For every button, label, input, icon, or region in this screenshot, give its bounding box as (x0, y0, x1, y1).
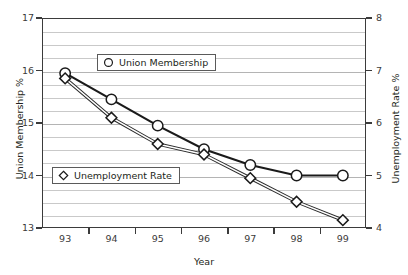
data-point-circle (153, 120, 163, 130)
data-point-circle (245, 160, 255, 170)
right-axis-tick (366, 227, 372, 229)
series-layer (42, 18, 366, 228)
right-axis-title: Unemployment Rate % (390, 64, 401, 194)
legend-unemployment-rate: Unemployment Rate (52, 167, 180, 184)
diamond-marker-icon (58, 170, 69, 181)
circle-marker-icon (103, 57, 114, 68)
left-axis-title: Union Membership % (14, 64, 25, 194)
legend-union-label: Union Membership (119, 58, 208, 68)
data-point-circle (338, 170, 348, 180)
x-axis-tick (181, 228, 183, 234)
legend-unemployment-label: Unemployment Rate (74, 171, 172, 181)
x-axis-tick (88, 228, 90, 234)
right-axis-tick (366, 175, 372, 177)
right-axis-tick (366, 70, 372, 72)
x-axis-tick-label: 95 (143, 234, 173, 244)
x-axis-tick-label: 93 (50, 234, 80, 244)
x-axis-tick-label: 97 (235, 234, 265, 244)
x-axis-tick-label: 98 (282, 234, 312, 244)
left-axis-tick-label: 13 (12, 223, 34, 233)
right-axis-tick (366, 17, 372, 19)
x-axis-tick (135, 228, 137, 234)
data-point-circle (106, 94, 116, 104)
x-axis-tick-label: 96 (189, 234, 219, 244)
legend-union-membership: Union Membership (97, 54, 216, 71)
right-axis-tick-label: 8 (376, 13, 396, 23)
left-axis-tick-label: 17 (12, 13, 34, 23)
x-axis-title: Year (0, 256, 408, 267)
x-axis-tick (227, 228, 229, 234)
dual-axis-line-chart: 17161514138765493949596979899 Union Memb… (0, 0, 408, 275)
right-axis-tick (366, 122, 372, 124)
x-axis-tick (320, 228, 322, 234)
data-point-diamond (337, 215, 348, 226)
x-axis-tick-label: 94 (96, 234, 126, 244)
x-axis-tick (273, 228, 275, 234)
data-point-circle (291, 170, 301, 180)
right-axis-tick-label: 4 (376, 223, 396, 233)
x-axis-tick-label: 99 (328, 234, 358, 244)
